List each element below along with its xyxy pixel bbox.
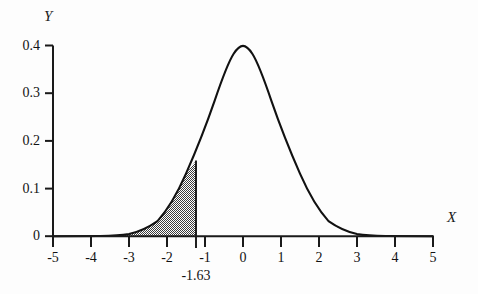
y-tick-label-0.3: 0.3 [23,85,41,101]
x-tick-label-3: 3 [354,250,361,266]
threshold-value-label: -1.63 [181,268,210,284]
y-axis-ticks [45,46,53,237]
y-tick-label-0.4: 0.4 [23,38,41,54]
y-tick-label-0.1: 0.1 [23,181,41,197]
x-tick-label--1: -1 [199,250,211,266]
density-curve [53,46,433,236]
x-tick-label-5: 5 [430,250,437,266]
x-tick-label-1: 1 [278,250,285,266]
y-axis-title: Y [44,8,52,25]
x-tick-label--2: -2 [161,250,173,266]
x-tick-label-4: 4 [392,250,399,266]
x-tick-label--3: -3 [123,250,135,266]
x-tick-label-0: 0 [240,250,247,266]
x-axis-title: X [447,209,456,226]
y-tick-label-0: 0 [33,228,40,244]
y-tick-label-0.2: 0.2 [23,133,41,149]
x-axis-ticks [53,236,433,247]
x-tick-label--5: -5 [47,250,59,266]
x-tick-label-2: 2 [316,250,323,266]
normal-distribution-chart: Y X 0.4 0.3 0.2 0.1 0 -5 -4 -3 -2 -1 0 1… [0,0,478,294]
x-tick-label--4: -4 [85,250,97,266]
